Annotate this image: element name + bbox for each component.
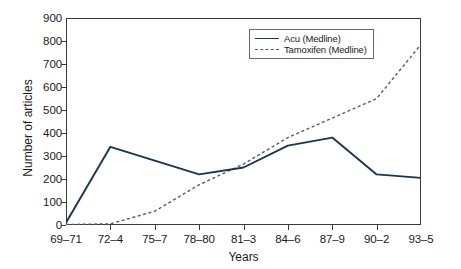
x-tick-label: 93–5 xyxy=(386,233,456,245)
legend-label-tamoxifen: Tamoxifen (Medline) xyxy=(284,44,367,55)
x-tick-mark xyxy=(199,225,200,230)
x-axis-title: Years xyxy=(66,250,421,264)
x-tick-mark xyxy=(155,225,156,230)
x-tick-mark xyxy=(377,225,378,230)
x-tick-mark xyxy=(288,225,289,230)
x-tick-mark xyxy=(332,225,333,230)
y-tick-label: 900 xyxy=(4,12,62,24)
x-tick-mark xyxy=(110,225,111,230)
y-tick-mark xyxy=(61,225,66,226)
series-line-tamoxifen xyxy=(66,44,421,224)
dashed-line-swatch xyxy=(255,45,279,54)
legend-item-tamoxifen: Tamoxifen (Medline) xyxy=(255,44,367,55)
y-tick-label: 0 xyxy=(4,219,62,231)
figure-container: 0100200300400500600700800900 Number of a… xyxy=(0,0,461,269)
legend: Acu (Medline) Tamoxifen (Medline) xyxy=(249,29,374,59)
legend-item-acu: Acu (Medline) xyxy=(255,33,367,44)
legend-label-acu: Acu (Medline) xyxy=(284,33,341,44)
y-axis-title: Number of articles xyxy=(21,53,35,203)
solid-line-swatch xyxy=(255,34,279,43)
x-tick-mark xyxy=(244,225,245,230)
series-line-acu xyxy=(66,138,421,223)
y-tick-label: 800 xyxy=(4,35,62,47)
